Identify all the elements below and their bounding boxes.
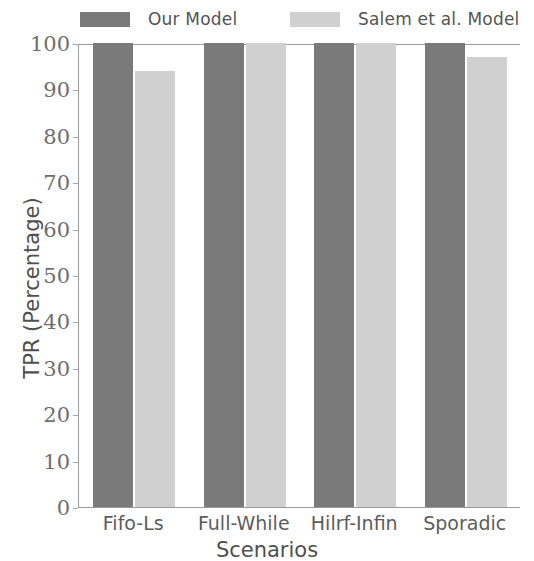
y-tick-label: 10: [43, 451, 70, 472]
bar: [246, 43, 286, 507]
bar: [135, 71, 175, 507]
bar: [93, 43, 133, 507]
bar: [467, 57, 507, 507]
y-tick-label: 20: [43, 405, 70, 426]
bar: [204, 43, 244, 507]
y-tick-label: 0: [57, 498, 70, 519]
legend-label-our-model: Our Model: [148, 9, 237, 29]
y-tick-label: 40: [43, 312, 70, 333]
plot-area: [78, 44, 520, 508]
x-tick-label: Sporadic: [423, 512, 506, 534]
chart-legend: Our Model Salem et al. Model: [0, 6, 534, 32]
legend-swatch-our-model: [80, 12, 130, 27]
bar: [314, 43, 354, 507]
y-tick-label: 80: [43, 126, 70, 147]
bar: [356, 43, 396, 507]
x-tick-label: Hilrf-Infin: [311, 512, 398, 534]
y-tick-label: 90: [43, 80, 70, 101]
y-tick-label: 50: [43, 266, 70, 287]
legend-entry-our-model: Our Model: [80, 6, 237, 32]
bars-layer: [79, 45, 520, 507]
x-tick-label: Full-While: [198, 512, 290, 534]
y-tick-mark: [73, 508, 78, 509]
bar: [425, 43, 465, 507]
y-tick-label: 60: [43, 219, 70, 240]
x-axis-title: Scenarios: [0, 538, 534, 561]
y-tick-label: 30: [43, 358, 70, 379]
legend-swatch-salem-model: [290, 12, 340, 27]
y-tick-label: 100: [30, 34, 70, 55]
legend-label-salem-model: Salem et al. Model: [358, 9, 519, 29]
x-tick-label: Fifo-Ls: [103, 512, 164, 534]
y-tick-label: 70: [43, 173, 70, 194]
y-axis-title: TPR (Percentage): [20, 153, 44, 423]
legend-entry-salem-model: Salem et al. Model: [290, 6, 519, 32]
